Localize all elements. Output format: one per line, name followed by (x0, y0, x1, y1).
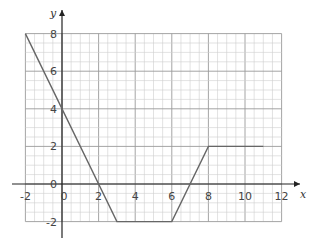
x-tick-label: 0 (61, 190, 68, 203)
y-tick-label: 6 (50, 65, 57, 78)
x-tick-label: 6 (168, 190, 175, 203)
x-tick-label: -2 (20, 190, 31, 203)
x-tick-label: 10 (238, 190, 252, 203)
x-axis-arrow-icon (294, 181, 300, 187)
tick-labels: -2024681012-202468 (20, 28, 289, 229)
x-tick-label: 12 (275, 190, 289, 203)
y-tick-label: 2 (50, 140, 57, 153)
y-tick-label: 4 (50, 103, 57, 116)
y-tick-label: -2 (46, 216, 57, 229)
x-tick-label: 4 (132, 190, 139, 203)
line-chart: -2024681012-202468 x y (0, 0, 310, 246)
x-tick-label: 8 (205, 190, 212, 203)
y-axis-arrow-icon (59, 10, 65, 16)
y-axis-label: y (49, 7, 57, 20)
x-axis-label: x (300, 188, 307, 201)
y-tick-label: 0 (50, 178, 57, 191)
axes (12, 10, 300, 238)
x-tick-label: 2 (95, 190, 102, 203)
y-tick-label: 8 (50, 28, 57, 41)
